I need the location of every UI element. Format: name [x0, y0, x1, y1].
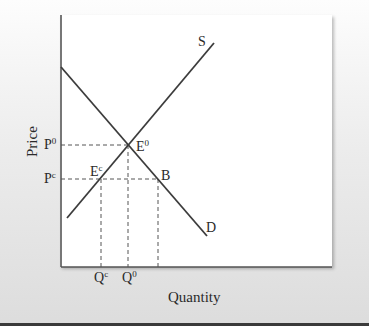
- point-b-label: B: [161, 169, 170, 183]
- supply-curve: [67, 43, 214, 218]
- demand-curve: [61, 67, 207, 236]
- pc-tick-label: Pc: [44, 172, 56, 186]
- equilibrium-point-label: E0: [136, 140, 149, 154]
- x-axis-title: Quantity: [168, 290, 221, 305]
- supply-demand-diagram: [0, 0, 369, 331]
- controlled-equilibrium-label: Ec: [90, 165, 103, 179]
- y-axis-title: Price: [25, 126, 40, 157]
- demand-label: D: [206, 221, 216, 235]
- supply-label: S: [198, 35, 206, 49]
- qc-tick-label: Qc: [94, 271, 108, 285]
- p0-tick-label: P0: [44, 138, 56, 152]
- q0-tick-label: Q0: [122, 271, 137, 285]
- bottom-margin: [0, 326, 369, 331]
